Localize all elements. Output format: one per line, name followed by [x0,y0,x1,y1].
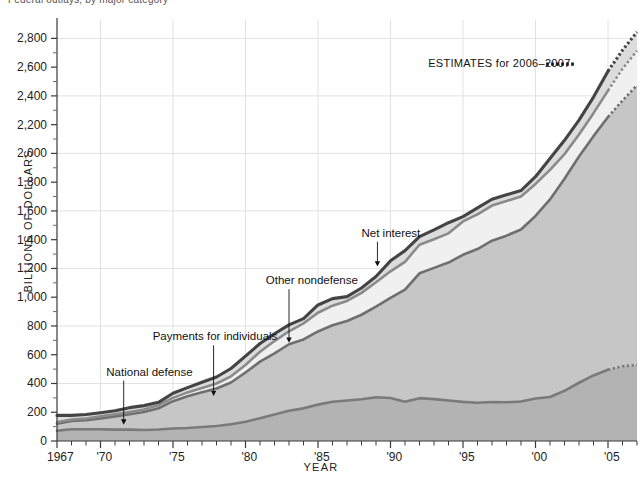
annotation-label-payments-for-individuals: Payments for individuals [153,330,278,342]
annotation-label-net-interest: Net interest [362,227,422,239]
y-axis-title: BILLIONS OF DOLLARS [22,136,34,306]
y-tick-label: 2,200 [17,118,47,132]
area-series-group [57,32,637,441]
chart-container: Federal outlays, by major category 02004… [0,0,642,484]
legend-group: ESTIMATES for 2006–2007 [428,57,576,69]
y-tick-label: 600 [27,348,47,362]
y-tick-label: 800 [27,319,47,333]
legend-estimates-label: ESTIMATES for 2006–2007 [428,57,570,69]
y-tick-label: 200 [27,405,47,419]
annotation-label-other-nondefense: Other nondefense [266,274,358,286]
annotation-label-national-defense: National defense [106,366,192,378]
y-tick-label: 2,600 [17,60,47,74]
y-tick-label: 2,800 [17,31,47,45]
y-tick-label: 2,400 [17,89,47,103]
y-tick-label: 400 [27,376,47,390]
area-series-payments-for-individuals [57,85,637,431]
y-tick-label: 0 [40,434,47,448]
area-chart-plot: 02004006008001,0001,2001,4001,6001,8002,… [0,0,642,484]
x-axis-title: YEAR [0,461,642,473]
